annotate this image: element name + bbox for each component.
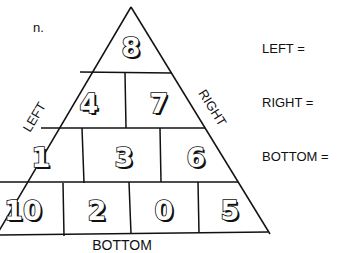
bottom-side-label: BOTTOM (92, 237, 152, 253)
cell-r2-c1: 4 (80, 88, 99, 119)
cell-r4-c2: 2 (88, 195, 107, 226)
pyramid-row-3: 1 1 3 3 6 6 (32, 142, 208, 175)
cell-r2-c2: 7 (150, 88, 169, 119)
right-side-label: RIGHT (195, 87, 229, 129)
cell-r4-c1: 10 (4, 195, 42, 226)
cell-r4-c4: 5 (221, 195, 240, 226)
question-bottom: BOTTOM = (262, 149, 329, 164)
left-side-label: LEFT (20, 100, 49, 135)
pyramid-row-4: 10 10 2 2 0 0 5 5 (4, 195, 241, 228)
question-right: RIGHT = (262, 95, 313, 110)
pyramid-row-1: 8 8 (122, 32, 143, 65)
question-left: LEFT = (262, 41, 305, 56)
cell-r3-c2: 3 (115, 142, 134, 173)
cell-r3-c3: 6 (187, 142, 206, 173)
cell-r4-c3: 0 (155, 195, 174, 226)
number-pyramid: 8 8 4 4 7 7 1 1 3 3 6 6 10 10 2 2 0 0 5 … (0, 0, 351, 253)
cell-r3-c1: 1 (32, 142, 51, 173)
cell-top: 8 (122, 32, 141, 63)
